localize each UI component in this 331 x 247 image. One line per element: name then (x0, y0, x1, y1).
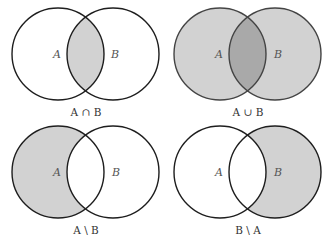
panel-difference-a-b: A B A \ B (12, 126, 159, 236)
set-label-a: A (52, 48, 61, 61)
set-label-a: A (214, 48, 223, 61)
caption-difference-a-b: A \ B (72, 224, 99, 236)
set-label-a: A (214, 166, 223, 179)
caption-difference-b-a: B \ A (235, 224, 261, 236)
set-label-b: B (273, 48, 282, 61)
panel-union: A B A ∪ B (174, 8, 321, 118)
set-label-a: A (52, 166, 61, 179)
panel-intersection: A B A ∩ B (12, 8, 159, 118)
set-label-b: B (111, 166, 120, 179)
caption-union: A ∪ B (232, 106, 264, 118)
set-label-b: B (110, 48, 119, 61)
caption-intersection: A ∩ B (70, 106, 102, 118)
venn-diagram-grid: A B A ∩ B A B A ∪ B A B A \ B A B B \ A (0, 0, 331, 247)
set-label-b: B (273, 166, 282, 179)
panel-difference-b-a: A B B \ A (174, 126, 321, 236)
